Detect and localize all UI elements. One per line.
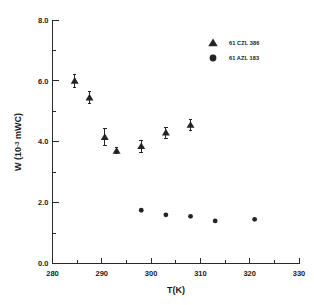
y-axis-title: W (10-3 mWC) — [13, 113, 23, 171]
y-tick-label: 2.0 — [38, 198, 48, 207]
y-tick-label: 4.0 — [38, 137, 48, 146]
x-tick-label: 310 — [194, 269, 207, 278]
y-axis-tick-labels: 0.02.04.06.08.0 — [38, 16, 48, 269]
legend-marker-circle — [210, 55, 217, 62]
plot-canvas: 0.02.04.06.08.0 280290300310320330 61 CZ… — [0, 0, 314, 305]
legend: 61 CZL 38661 AZL 183 — [208, 38, 259, 61]
data-point-circle — [163, 212, 168, 217]
y-tick-label: 6.0 — [38, 77, 48, 86]
x-axis-title: T(K) — [167, 285, 185, 295]
x-tick-label: 290 — [96, 269, 109, 278]
x-tick-label: 300 — [145, 269, 158, 278]
scatter-plot-figure: 0.02.04.06.08.0 280290300310320330 61 CZ… — [0, 0, 314, 305]
data-point-circle — [139, 208, 144, 213]
data-point-triangle — [137, 142, 145, 149]
series-2 — [139, 208, 257, 223]
data-point-triangle — [162, 129, 170, 136]
data-point-triangle — [187, 121, 195, 128]
x-axis-minor-ticks — [77, 260, 274, 264]
y-axis-major-ticks — [53, 20, 59, 264]
y-tick-label: 0.0 — [38, 259, 48, 268]
data-point-circle — [213, 218, 218, 223]
legend-marker-triangle — [208, 38, 217, 46]
data-point-triangle — [113, 147, 121, 154]
y-axis-title-prefix: W (10 — [13, 147, 23, 171]
legend-label: 61 AZL 183 — [229, 55, 259, 61]
legend-label: 61 CZL 386 — [229, 40, 259, 46]
data-point-circle — [188, 214, 193, 219]
data-point-circle — [252, 217, 257, 222]
y-axis-title-suffix: mWC) — [13, 113, 23, 142]
data-point-triangle — [86, 94, 94, 101]
series-1 — [71, 74, 195, 154]
data-point-triangle — [101, 133, 109, 140]
x-axis-tick-labels: 280290300310320330 — [46, 269, 305, 278]
plot-axes — [53, 20, 300, 264]
x-tick-label: 320 — [243, 269, 256, 278]
x-tick-label: 280 — [46, 269, 59, 278]
x-tick-label: 330 — [293, 269, 306, 278]
data-point-triangle — [71, 77, 79, 84]
data-series-group — [71, 74, 257, 223]
y-tick-label: 8.0 — [38, 16, 48, 25]
